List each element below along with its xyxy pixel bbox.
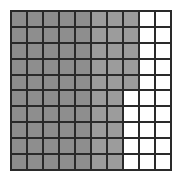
grid-cell [139,106,155,122]
grid-cell [75,154,91,170]
grid-cell [123,11,139,27]
grid-cell [139,122,155,138]
grid-cell [43,106,59,122]
grid-cell [43,75,59,91]
grid-cell [155,90,171,106]
grid-cell [107,154,123,170]
grid-cell [139,90,155,106]
grid-cell [139,59,155,75]
grid-cell [155,106,171,122]
grid-cell [43,90,59,106]
grid-cell [139,43,155,59]
grid-cell [107,75,123,91]
grid-cell [107,43,123,59]
grid-cell [59,27,75,43]
grid-cell [139,75,155,91]
grid-cell [91,122,107,138]
grid-cell [27,154,43,170]
grid-cell [27,106,43,122]
grid-cell [139,154,155,170]
grid-cell [43,59,59,75]
grid-cell [27,27,43,43]
grid-cell [75,11,91,27]
grid-cell [123,154,139,170]
grid-cell [123,27,139,43]
grid-cell [27,43,43,59]
grid-cell [43,138,59,154]
grid-cell [59,90,75,106]
grid-cell [11,59,27,75]
grid-cell [27,59,43,75]
grid-cell [43,43,59,59]
grid-cell [123,75,139,91]
grid-cell [59,138,75,154]
grid-cell [75,106,91,122]
grid-cell [27,90,43,106]
grid-cell [43,27,59,43]
grid-cell [75,27,91,43]
grid-cell [139,11,155,27]
grid-cell [107,27,123,43]
grid-cell [91,75,107,91]
grid-cell [91,154,107,170]
grid-cell [11,138,27,154]
grid-cell [107,90,123,106]
grid-cell [91,59,107,75]
grid-cell [75,90,91,106]
grid-cell [43,11,59,27]
grid-cell [75,43,91,59]
grid-cell [91,11,107,27]
grid-cell [11,90,27,106]
grid-cell [107,106,123,122]
grid-cell [11,106,27,122]
grid-cell [75,59,91,75]
grid-cell [155,138,171,154]
grid-cell [91,27,107,43]
grid-cell [155,122,171,138]
grid-cell [91,138,107,154]
grid-cell [155,43,171,59]
grid-cell [43,154,59,170]
grid-cell [107,11,123,27]
grid-cell [59,59,75,75]
grid-cell [27,11,43,27]
grid-cell [11,11,27,27]
grid-cell [107,59,123,75]
grid-cell [91,106,107,122]
grid-cell [11,27,27,43]
grid-cell [27,75,43,91]
grid-cell [27,122,43,138]
grid-cell [59,106,75,122]
grid-cell [155,75,171,91]
grid-cell [59,122,75,138]
grid-cell [91,90,107,106]
grid-cell [91,43,107,59]
grid-cell [59,154,75,170]
grid-cell [59,11,75,27]
grid-cell [107,138,123,154]
grid-cell [75,122,91,138]
grid-cell [11,154,27,170]
grid-cell [139,27,155,43]
grid-cell [123,106,139,122]
grid-cell [11,43,27,59]
grid-cell [155,59,171,75]
grid-cell [59,43,75,59]
grid-cell [123,43,139,59]
grid-cell [155,154,171,170]
grid-cell [75,75,91,91]
grid-cell [123,122,139,138]
grid-cell [43,122,59,138]
grid-cell [123,59,139,75]
grid-cell [139,138,155,154]
grid-cell [123,90,139,106]
hundred-grid [10,10,172,171]
grid-cell [107,122,123,138]
grid-cell [155,11,171,27]
grid-cell [75,138,91,154]
grid-cell [155,27,171,43]
grid-cell [59,75,75,91]
grid-cell [27,138,43,154]
grid-cell [11,122,27,138]
grid-cell [11,75,27,91]
